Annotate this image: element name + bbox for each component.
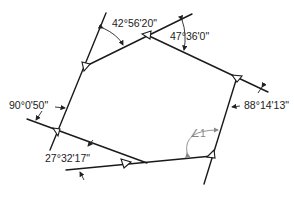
angle-arc-a3b (232, 106, 240, 107)
angle-label-a3: 88°14'13" (244, 99, 289, 111)
station-a-icon (82, 62, 90, 71)
angle-arc-a5b (80, 172, 84, 180)
angle-label-a2: 47°36'0" (170, 30, 209, 42)
station-e-icon (121, 159, 131, 168)
leg-bc (147, 35, 268, 92)
angle-label-a1: 42°56'20" (112, 17, 157, 29)
traverse-diagram: 42°56'20" 47°36'0" 88°14'13" ∠1 27°32'17… (0, 0, 294, 198)
angle-arc-a6b (36, 111, 42, 120)
angle-label-a5: 27°32'17" (45, 152, 90, 164)
angle-arc-a1 (103, 28, 123, 45)
station-c-icon (232, 75, 242, 82)
station-d-icon (207, 150, 215, 158)
angle-label-unknown: ∠1 (190, 127, 206, 139)
angle-label-a6: 90°0'50" (9, 99, 48, 111)
angle-arc-a6a (55, 107, 65, 108)
